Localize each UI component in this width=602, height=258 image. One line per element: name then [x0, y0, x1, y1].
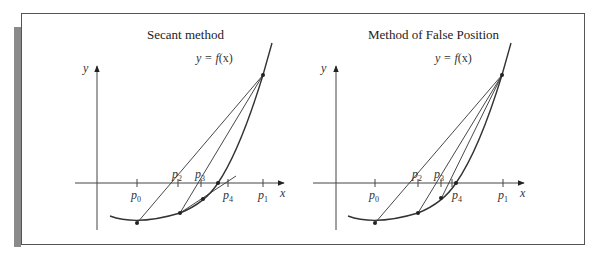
- label-p3: p3: [194, 167, 205, 183]
- label-p3: p3: [433, 167, 444, 183]
- x-axis-label: x: [519, 186, 526, 200]
- label-p0: p0: [368, 188, 379, 204]
- x-axis-label: x: [279, 186, 286, 200]
- curve-label: y = f(x): [434, 51, 472, 65]
- point-p2: [178, 211, 182, 215]
- y-axis-label: y: [82, 61, 89, 75]
- root-point: [454, 181, 458, 185]
- point-p2: [416, 211, 420, 215]
- point-p0: [135, 221, 139, 225]
- point-p1: [500, 73, 504, 77]
- y-axis-label: y: [320, 61, 327, 75]
- label-p1: p1: [257, 188, 268, 204]
- false-position-line-3: [441, 75, 502, 199]
- point-p1: [261, 73, 265, 77]
- point-p0: [373, 221, 377, 225]
- label-p4: p4: [222, 188, 233, 204]
- panel-title-secant: Secant method: [147, 27, 224, 42]
- label-p4: p4: [451, 188, 462, 204]
- label-p1: p1: [497, 188, 508, 204]
- label-p2: p2: [411, 167, 422, 183]
- root-point: [216, 181, 220, 185]
- false-position-panel: Method of False Position y x y = f(x) p0…: [313, 27, 526, 230]
- point-p3: [201, 197, 205, 201]
- secant-panel: Secant method y x y = f(x) p0 p2 p3 p4 p…: [75, 27, 286, 230]
- false-position-line-2: [418, 75, 502, 213]
- secant-line-1: [137, 75, 263, 223]
- label-p2: p2: [171, 167, 182, 183]
- curve-label: y = f(x): [195, 51, 233, 65]
- panel-title-false-position: Method of False Position: [368, 27, 500, 42]
- figure-canvas: Secant method y x y = f(x) p0 p2 p3 p4 p…: [0, 0, 602, 258]
- point-p3: [439, 196, 443, 200]
- label-p0: p0: [130, 188, 141, 204]
- secant-line-2: [180, 75, 263, 213]
